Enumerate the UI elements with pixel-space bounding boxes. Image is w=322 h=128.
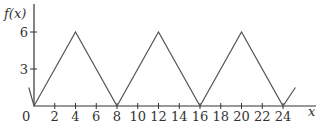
x-tick-label: 18 xyxy=(212,109,229,124)
origin-label: 0 xyxy=(22,109,30,124)
x-tick-label: 14 xyxy=(171,109,188,124)
y-axis-label: f(x) xyxy=(3,6,26,21)
x-tick-label: 4 xyxy=(71,109,79,124)
x-tick-label: 16 xyxy=(192,109,209,124)
ticks xyxy=(30,32,283,109)
x-axis-label: x xyxy=(308,104,316,119)
x-tick-label: 24 xyxy=(275,109,292,124)
axes xyxy=(34,4,316,106)
y-tick-label: 3 xyxy=(20,62,28,77)
y-tick-label: 6 xyxy=(20,25,28,40)
x-tick-label: 10 xyxy=(129,109,146,124)
x-tick-label: 22 xyxy=(254,109,271,124)
labels: 2468101214161820222436 xyxy=(20,25,292,125)
x-tick-label: 20 xyxy=(233,109,250,124)
x-tick-label: 2 xyxy=(51,109,59,124)
x-tick-label: 8 xyxy=(113,109,121,124)
function-line xyxy=(29,32,296,106)
x-tick-label: 6 xyxy=(92,109,100,124)
x-tick-label: 12 xyxy=(150,109,167,124)
chart: 2468101214161820222436 f(x) x 0 xyxy=(0,0,322,128)
